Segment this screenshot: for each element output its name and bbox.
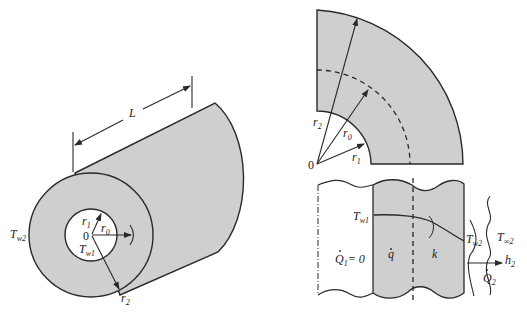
- void-top-edge: [318, 180, 373, 187]
- quarter-section: r2 r0 r1 0: [308, 10, 463, 172]
- origin-label: 0: [83, 229, 89, 243]
- tinf-label: T∞2: [497, 230, 513, 246]
- qgen-dot: [390, 248, 392, 250]
- tw2-label: Tw2: [10, 227, 26, 243]
- length-arrow-right: [143, 86, 190, 109]
- quarter-r1-label: r1: [352, 150, 361, 166]
- wall-tw1-label: Tw1: [353, 209, 369, 225]
- r2-label: r2: [121, 291, 130, 307]
- quarter-annulus: [317, 10, 463, 164]
- q1-label: Q1= 0: [335, 252, 365, 268]
- q2-dot: [486, 269, 488, 271]
- diagram-canvas: L r1 r0 0 Tw1 Tw2 r2 r2 r0 r1 0: [0, 0, 527, 317]
- quarter-r0-label: r0: [343, 126, 352, 142]
- void-bottom-edge: [318, 290, 373, 297]
- wall-tw2-label: Tw2: [466, 232, 482, 248]
- cylinder-view: L r1 r0 0 Tw1 Tw2 r2: [10, 76, 244, 307]
- q2-label: Q2: [483, 271, 496, 287]
- h2-label: h2: [505, 253, 515, 269]
- conductivity-label: k: [432, 247, 438, 261]
- quarter-r2-label: r2: [313, 115, 322, 131]
- quarter-origin-label: 0: [308, 158, 314, 172]
- wall-solid: [373, 180, 464, 298]
- length-arrow-left: [75, 120, 123, 145]
- length-label: L: [128, 106, 136, 120]
- q1-dot: [339, 250, 341, 252]
